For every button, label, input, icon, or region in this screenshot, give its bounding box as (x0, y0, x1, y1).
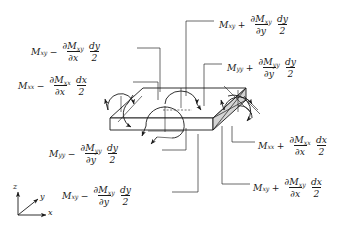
operator-symbol: + (246, 63, 254, 72)
leader-mxy-plus-y (186, 21, 214, 96)
operator-symbol: − (81, 191, 89, 200)
operator-symbol: + (272, 183, 280, 192)
differential-fraction: dx2 (74, 75, 88, 96)
partial-derivative-fraction: ∂Mxy∂y (249, 14, 273, 35)
operator-symbol: − (68, 149, 76, 158)
axis-label-x: x (48, 208, 53, 217)
plate-front-face (110, 118, 213, 130)
moment-symbol: Mxy (31, 47, 47, 56)
partial-derivative-fraction: ∂Myy∂y (79, 143, 103, 164)
label-myy-plus-y: Myy+∂Myy∂ydy2 (227, 57, 299, 78)
moment-symbol: Mxy (219, 20, 235, 29)
leader-mxy-minus-x (137, 48, 160, 92)
operator-symbol: + (277, 141, 285, 150)
axis-label-y: y (40, 192, 45, 201)
moment-symbol: Myy (49, 149, 65, 158)
partial-derivative-fraction: ∂Mxy∂y (92, 185, 116, 206)
partial-derivative-fraction: ∂Mxy∂x (61, 41, 85, 62)
partial-derivative-fraction: ∂Mxy∂x (283, 177, 307, 198)
label-mxx-minus-x: Mxx−∂Mxx∂xdx2 (18, 75, 90, 96)
partial-derivative-fraction: ∂Myy∂y (257, 57, 281, 78)
differential-fraction: dx2 (314, 135, 328, 156)
differential-fraction: dy2 (105, 143, 119, 164)
moment-symbol: Mxx (258, 141, 274, 150)
differential-fraction: dy2 (283, 57, 297, 78)
moment-symbol: Mxy (62, 191, 78, 200)
operator-symbol: − (37, 81, 45, 90)
operator-symbol: + (238, 20, 246, 29)
axis-label-z: z (13, 182, 17, 191)
label-myy-minus-y: Myy−∂Myy∂ydy2 (49, 143, 121, 164)
leader-mxy-plus-x (222, 126, 250, 184)
moment-symbol: Mxy (253, 183, 269, 192)
partial-derivative-fraction: ∂Mxx∂x (48, 75, 72, 96)
operator-symbol: − (50, 47, 58, 56)
y-axis-arrow (18, 199, 38, 215)
plate-moment-diagram: z y x Mxy−∂Mxy∂xdy2 Mxx−∂Mxx∂xdx2 Mxy+∂M… (0, 0, 347, 228)
moment-symbol: Mxx (18, 81, 34, 90)
leader-mxy-minus-y (172, 134, 198, 192)
label-mxx-plus-x: Mxx+∂Mxx∂xdx2 (258, 135, 330, 156)
label-mxy-minus-y: Mxy−∂Mxy∂ydy2 (62, 185, 134, 206)
moment-symbol: Myy (227, 63, 243, 72)
differential-fraction: dy2 (275, 14, 289, 35)
leader-mxx-plus-x (232, 126, 255, 142)
label-mxy-plus-x: Mxy+∂Mxy∂xdx2 (253, 177, 325, 198)
differential-fraction: dy2 (118, 185, 132, 206)
differential-fraction: dy2 (87, 41, 101, 62)
label-mxy-minus-x: Mxy−∂Mxy∂xdy2 (31, 41, 103, 62)
differential-fraction: dx2 (309, 177, 323, 198)
label-mxy-plus-y: Mxy+∂Mxy∂ydy2 (219, 14, 291, 35)
partial-derivative-fraction: ∂Mxx∂x (288, 135, 312, 156)
